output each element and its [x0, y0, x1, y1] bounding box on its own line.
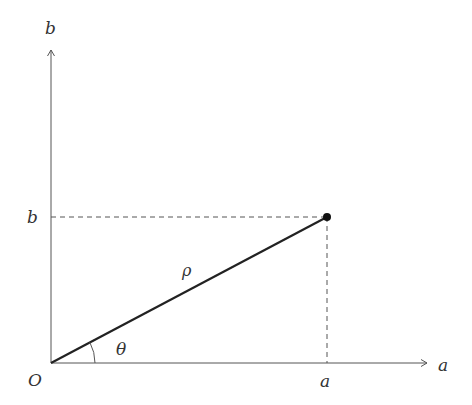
polar-diagram: b a O b a ρ θ [0, 0, 472, 405]
point-marker [323, 213, 331, 221]
y-axis-label: b [45, 18, 56, 38]
angle-arc [90, 342, 95, 363]
point-x-label: a [320, 371, 330, 391]
theta-label: θ [116, 339, 126, 359]
x-axis-label: a [438, 355, 448, 375]
radius-segment [51, 217, 327, 363]
origin-label: O [28, 370, 42, 390]
point-y-label: b [27, 207, 38, 227]
rho-label: ρ [181, 261, 192, 280]
